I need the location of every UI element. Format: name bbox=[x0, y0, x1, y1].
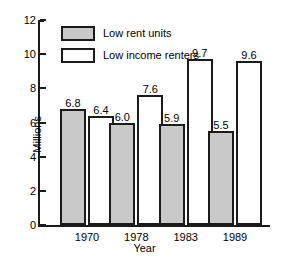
legend-item-low-rent-units: Low rent units bbox=[61, 24, 199, 43]
bar-value-label: 7.6 bbox=[143, 84, 158, 95]
y-axis-tick-label: 10 bbox=[24, 49, 36, 60]
x-axis-label: 1970 bbox=[75, 232, 99, 243]
y-axis-tick: 2 bbox=[40, 190, 46, 192]
bar: 5.5 bbox=[208, 131, 234, 225]
legend-swatch-icon-low-income-renters bbox=[61, 48, 95, 63]
y-axis-tick-label: 12 bbox=[24, 15, 36, 26]
x-axis-label: 1983 bbox=[173, 232, 197, 243]
bar: 6.8 bbox=[60, 109, 86, 225]
bar-value-label: 5.9 bbox=[164, 113, 179, 124]
bar-value-label: 5.5 bbox=[213, 120, 228, 131]
x-axis-label: 1989 bbox=[223, 232, 247, 243]
y-axis-tick-label: 8 bbox=[30, 83, 36, 94]
x-axis-line bbox=[38, 225, 270, 227]
legend-swatch-icon-low-rent-units bbox=[61, 26, 95, 41]
bar: 6.0 bbox=[109, 123, 135, 226]
y-axis-tick-label: 4 bbox=[30, 151, 36, 162]
y-axis-tick-label: 2 bbox=[30, 185, 36, 196]
legend-label-low-rent-units: Low rent units bbox=[103, 28, 171, 39]
y-axis-tick: 12 bbox=[40, 19, 46, 21]
bar-value-label: 6.0 bbox=[115, 112, 130, 123]
y-axis-tick: 8 bbox=[40, 87, 46, 89]
bar-value-label: 6.4 bbox=[93, 105, 108, 116]
y-axis-tick: 0 bbox=[40, 224, 46, 226]
bar-value-label: 6.8 bbox=[65, 98, 80, 109]
y-axis-title: Millions bbox=[32, 116, 43, 153]
chart-legend: Low rent units Low income renters bbox=[61, 24, 199, 68]
x-axis-title: Year bbox=[0, 243, 289, 254]
y-axis-tick-label: 0 bbox=[30, 220, 36, 231]
bar: 5.9 bbox=[159, 124, 185, 225]
bar: 9.6 bbox=[236, 61, 262, 225]
legend-item-low-income-renters: Low income renters bbox=[61, 46, 199, 65]
y-axis-tick: 4 bbox=[40, 156, 46, 158]
y-axis-tick: 10 bbox=[40, 53, 46, 55]
legend-label-low-income-renters: Low income renters bbox=[103, 50, 199, 61]
bar-chart: 024681012 6.86.46.07.65.99.75.59.6 19701… bbox=[0, 0, 289, 280]
bar-value-label: 9.6 bbox=[241, 50, 256, 61]
